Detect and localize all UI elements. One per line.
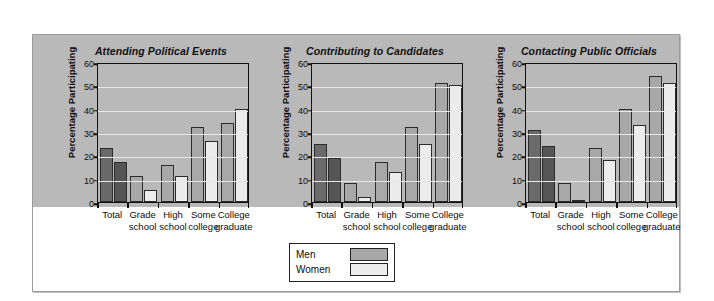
chart-panel-contributing-to-candidates: Contributing to Candidates Percentage Pa… <box>271 35 479 241</box>
y-axis-tick-mark <box>308 180 312 182</box>
bar <box>633 125 646 202</box>
x-axis-tick-mark <box>586 203 588 208</box>
y-axis-label: Percentage Participating <box>494 33 505 173</box>
bar <box>358 197 371 202</box>
y-axis-tick-mark <box>308 110 312 112</box>
x-axis-tick-mark <box>402 203 404 208</box>
bar <box>389 172 402 202</box>
gridline <box>98 87 248 88</box>
x-axis-labels: TotalGradeschoolHighschoolSomecollegeCol… <box>295 209 479 239</box>
y-axis-tick-mark <box>94 63 98 65</box>
y-axis-tick-label: 60 <box>84 59 94 69</box>
legend: Men Women <box>289 243 395 282</box>
y-axis-tick-label: 40 <box>84 106 94 116</box>
y-axis-tick-mark <box>522 63 526 65</box>
bar <box>542 146 555 202</box>
bar <box>558 183 571 202</box>
bar <box>405 127 418 202</box>
y-axis-tick-mark <box>522 180 526 182</box>
y-axis-tick-mark <box>308 157 312 159</box>
chart-title: Contributing to Candidates <box>271 45 479 57</box>
x-axis-labels: TotalGradeschoolHighschoolSomecollegeCol… <box>81 209 265 239</box>
plot-area: 0102030405060 <box>97 63 249 203</box>
x-axis-tick-mark <box>647 203 649 208</box>
y-axis-tick-mark <box>94 133 98 135</box>
x-axis-tick-mark <box>219 203 221 208</box>
x-axis-tick-mark <box>676 203 678 208</box>
y-axis-label: Percentage Participating <box>66 33 77 173</box>
chart-title: Attending Political Events <box>57 45 265 57</box>
bar <box>114 162 127 202</box>
bar <box>649 76 662 202</box>
y-axis-tick-mark <box>94 180 98 182</box>
x-axis-tick-mark <box>616 203 618 208</box>
x-axis-category-label-line1: College <box>636 209 688 221</box>
x-axis-tick-mark <box>158 203 160 208</box>
y-axis-tick-label: 20 <box>84 152 94 162</box>
y-axis-tick-label: 30 <box>298 129 308 139</box>
x-axis-tick-mark <box>248 203 250 208</box>
bar <box>449 85 462 202</box>
y-axis-tick-label: 50 <box>84 82 94 92</box>
gridline <box>98 181 248 182</box>
y-axis-tick-mark <box>522 87 526 89</box>
gridline <box>312 157 462 158</box>
gridline <box>312 111 462 112</box>
bar <box>619 109 632 202</box>
y-axis-tick-mark <box>94 110 98 112</box>
figure-root: Attending Political Events Percentage Pa… <box>0 0 714 301</box>
y-axis-tick-mark <box>308 63 312 65</box>
x-axis-tick-mark <box>311 203 313 208</box>
y-axis-tick-mark <box>522 133 526 135</box>
y-axis-tick-label: 30 <box>84 129 94 139</box>
plot-area: 0102030405060 <box>525 63 677 203</box>
x-axis-category-label-line1: College <box>208 209 260 221</box>
y-axis-tick-label: 40 <box>298 106 308 116</box>
x-axis-tick-mark <box>555 203 557 208</box>
gridline <box>98 134 248 135</box>
y-axis-tick-mark <box>522 157 526 159</box>
x-axis-tick-mark <box>188 203 190 208</box>
x-axis-category-label: Collegegraduate <box>636 209 688 233</box>
bar <box>435 83 448 202</box>
y-axis-tick-mark <box>94 87 98 89</box>
y-axis-tick-label: 40 <box>512 106 522 116</box>
bar <box>663 83 676 202</box>
bar <box>528 130 541 202</box>
y-axis-label: Percentage Participating <box>280 33 291 173</box>
bar <box>572 200 585 202</box>
y-axis-tick-mark <box>308 87 312 89</box>
y-axis-tick-label: 50 <box>512 82 522 92</box>
x-axis-category-label-line2: graduate <box>422 221 474 233</box>
legend-item-women: Women <box>296 262 388 277</box>
legend-swatch-women <box>350 263 388 276</box>
chart-panel-attending-political-events: Attending Political Events Percentage Pa… <box>57 35 265 241</box>
gridline <box>312 87 462 88</box>
y-axis-tick-label: 10 <box>84 176 94 186</box>
bar <box>344 183 357 202</box>
plot-area: 0102030405060 <box>311 63 463 203</box>
y-axis-tick-label: 50 <box>298 82 308 92</box>
legend-swatch-men <box>350 248 388 261</box>
y-axis-tick-label: 20 <box>512 152 522 162</box>
chart-title: Contacting Public Officials <box>485 45 693 57</box>
bar <box>419 144 432 202</box>
x-axis-category-label-line1: College <box>422 209 474 221</box>
bar <box>205 141 218 202</box>
chart-panel-contacting-public-officials: Contacting Public Officials Percentage P… <box>485 35 693 241</box>
gridline <box>312 181 462 182</box>
bar <box>235 109 248 202</box>
bar <box>144 190 157 202</box>
gridline <box>526 181 676 182</box>
x-axis-category-label-line2: graduate <box>636 221 688 233</box>
x-axis-tick-mark <box>462 203 464 208</box>
legend-label-women: Women <box>296 264 340 275</box>
chart-plate: Attending Political Events Percentage Pa… <box>32 34 680 292</box>
gridline <box>312 134 462 135</box>
bar <box>314 144 327 202</box>
x-axis-category-label: Collegegraduate <box>208 209 260 233</box>
y-axis-tick-label: 20 <box>298 152 308 162</box>
gridline <box>98 111 248 112</box>
legend-item-men: Men <box>296 247 388 262</box>
x-axis-tick-mark <box>525 203 527 208</box>
